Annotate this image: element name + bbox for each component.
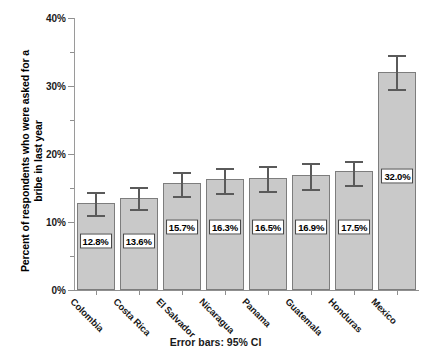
error-bar-cap-upper	[345, 161, 363, 163]
bar	[163, 183, 201, 290]
error-bar-cap-lower	[87, 215, 105, 217]
x-axis-tick	[268, 290, 269, 295]
error-bar-stem	[396, 55, 398, 88]
y-axis-tick-major	[68, 86, 74, 87]
error-bar-cap-lower	[173, 196, 191, 198]
y-axis-title-line2: bribe in last year	[32, 120, 44, 202]
bar-value-label: 16.5%	[252, 219, 284, 234]
error-bar-cap-lower	[345, 185, 363, 187]
y-axis-tick-minor	[70, 256, 74, 257]
error-bar-cap-upper	[87, 192, 105, 194]
y-axis-title-line1: Percent of respondents who were asked fo…	[19, 50, 31, 272]
bar-value-label: 17.5%	[338, 219, 370, 234]
error-bar-cap-lower	[388, 89, 406, 91]
x-axis-category-label: Nicaragua	[197, 296, 237, 336]
x-axis-tick	[182, 290, 183, 295]
y-axis-tick-label: 10%	[46, 217, 66, 228]
x-axis-tick	[139, 290, 140, 295]
x-axis-category-label: Guatemala	[283, 296, 324, 337]
bar-value-label: 12.8%	[80, 234, 112, 249]
bar-value-label: 16.9%	[295, 219, 327, 234]
plot-area: 0%10%20%30%40% 12.8%13.6%15.7%16.3%16.5%…	[74, 18, 419, 290]
x-axis-category-label: Costa Rica	[111, 296, 153, 338]
error-bar-stem	[181, 172, 183, 196]
error-bar-cap-upper	[259, 166, 277, 168]
error-bar-cap-upper	[173, 172, 191, 174]
y-axis-title: Percent of respondents who were asked fo…	[15, 21, 49, 301]
error-bar-stem	[95, 192, 97, 214]
x-axis-tick	[397, 290, 398, 295]
bribe-survey-bar-chart: Percent of respondents who were asked fo…	[0, 0, 431, 360]
y-axis-tick-minor	[70, 52, 74, 53]
x-axis-tick	[96, 290, 97, 295]
bar-value-label: 15.7%	[166, 219, 198, 234]
y-axis-tick-major	[68, 18, 74, 19]
x-axis-tick	[225, 290, 226, 295]
x-axis-line	[74, 290, 419, 291]
error-bar-cap-upper	[388, 55, 406, 57]
y-axis-tick-label: 20%	[46, 149, 66, 160]
x-axis-category-label: Honduras	[327, 296, 366, 335]
y-axis-tick-label: 0%	[52, 285, 66, 296]
error-bar-stem	[353, 161, 355, 185]
bar-value-label: 13.6%	[123, 234, 155, 249]
error-bar-stem	[267, 166, 269, 191]
x-axis-category-label: Mexico	[370, 296, 400, 326]
bar	[206, 179, 244, 290]
error-bar-cap-lower	[302, 189, 320, 191]
error-bar-cap-lower	[216, 193, 234, 195]
error-bar-cap-upper	[216, 168, 234, 170]
x-axis-category-label: Panama	[240, 296, 273, 329]
error-bar-stem	[138, 187, 140, 209]
error-bar-cap-lower	[259, 191, 277, 193]
error-bar-cap-upper	[302, 163, 320, 165]
y-axis-tick-minor	[70, 120, 74, 121]
error-bar-stem	[224, 168, 226, 193]
bar-value-label: 16.3%	[209, 219, 241, 234]
y-axis-tick-major	[68, 154, 74, 155]
y-axis-tick-label: 30%	[46, 81, 66, 92]
y-axis-tick-major	[68, 290, 74, 291]
bar-value-label: 32.0%	[381, 169, 413, 184]
x-axis-category-label: Colombia	[68, 296, 106, 334]
x-axis-tick	[311, 290, 312, 295]
error-bar-stem	[310, 163, 312, 189]
y-axis-tick-minor	[70, 188, 74, 189]
error-bar-cap-lower	[130, 209, 148, 211]
error-bar-cap-upper	[130, 187, 148, 189]
x-axis-category-label: El Salvador	[154, 296, 198, 340]
y-axis-tick-label: 40%	[46, 13, 66, 24]
y-axis-line	[74, 18, 75, 290]
error-bar-note: Error bars: 95% CI	[0, 336, 431, 348]
y-axis-tick-major	[68, 222, 74, 223]
x-axis-tick	[354, 290, 355, 295]
